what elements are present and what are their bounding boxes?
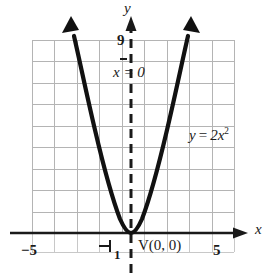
equation-y-part: y <box>189 127 196 143</box>
equation-label: y=2x2 <box>189 127 229 143</box>
grid-below-axis <box>32 233 234 252</box>
axis-of-symmetry-label: x = 0 <box>113 65 145 80</box>
y-axis <box>126 16 137 274</box>
vertex-label: V(0, 0) <box>138 238 181 253</box>
x-tick-label-1: 1 <box>114 248 121 261</box>
equation-coefficient: 2x <box>210 127 224 143</box>
equation-exponent: 2 <box>224 126 229 136</box>
y-tick-label-9: 9 <box>117 33 125 48</box>
parabola-curve <box>62 16 200 233</box>
y-axis-label: y <box>124 1 131 16</box>
x-axis-label: x <box>255 222 262 237</box>
x-tick-label-5: 5 <box>213 243 221 258</box>
parabola-figure: y x 9 −5 5 1 x = 0 y=2x2 V(0, 0) <box>0 0 268 278</box>
x-tick-label-neg5: −5 <box>21 243 37 258</box>
equation-equals: = <box>199 127 207 143</box>
